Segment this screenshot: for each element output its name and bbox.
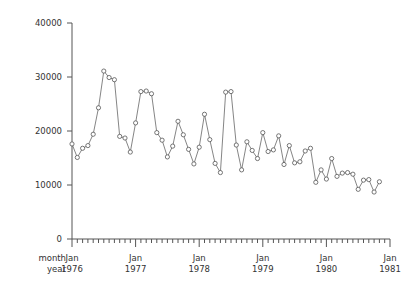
series-line	[72, 71, 379, 192]
data-point	[160, 138, 164, 142]
x-tick-label-year: 1978	[188, 264, 210, 274]
data-point	[144, 89, 148, 93]
data-point	[240, 168, 244, 172]
data-point	[351, 172, 355, 176]
data-point	[139, 89, 143, 93]
data-point	[149, 92, 153, 96]
data-point	[96, 106, 100, 110]
x-axis-tick-labels: Jan1976Jan1977Jan1978Jan1979Jan1980Jan19…	[61, 253, 401, 274]
data-point	[266, 149, 270, 153]
y-axis-ticks	[67, 23, 72, 239]
x-tick-label-month: Jan	[319, 253, 333, 263]
data-point	[361, 178, 365, 182]
x-axis-caption-year: year	[47, 264, 66, 274]
data-point	[118, 134, 122, 138]
data-point	[123, 136, 127, 140]
data-point	[356, 187, 360, 191]
data-point	[324, 177, 328, 181]
x-tick-label-year: 1981	[379, 264, 401, 274]
data-point	[155, 131, 159, 135]
data-point	[293, 161, 297, 165]
y-tick-label: 20000	[35, 126, 62, 136]
data-point	[319, 168, 323, 172]
x-axis-caption-month: month	[38, 253, 66, 263]
data-point	[107, 75, 111, 79]
x-tick-label-month: Jan	[128, 253, 142, 263]
x-tick-label-month: Jan	[192, 253, 206, 263]
data-point	[314, 180, 318, 184]
data-point	[377, 180, 381, 184]
data-point	[367, 178, 371, 182]
x-tick-label-year: 1977	[125, 264, 147, 274]
data-point	[271, 148, 275, 152]
y-tick-label: 40000	[35, 18, 62, 28]
data-point	[202, 112, 206, 116]
data-point	[192, 162, 196, 166]
data-point	[102, 69, 106, 73]
data-point	[308, 146, 312, 150]
series-markers	[70, 69, 382, 194]
y-tick-label: 30000	[35, 72, 62, 82]
data-point	[171, 144, 175, 148]
chart-container: 010000200003000040000 Jan1976Jan1977Jan1…	[0, 0, 420, 283]
data-point	[176, 119, 180, 123]
data-point	[340, 171, 344, 175]
x-axis-ticks	[72, 239, 390, 247]
data-point	[224, 90, 228, 94]
data-point	[298, 160, 302, 164]
data-point	[250, 148, 254, 152]
data-point	[70, 142, 74, 146]
y-tick-label: 10000	[35, 180, 62, 190]
data-point	[91, 132, 95, 136]
data-point	[229, 89, 233, 93]
data-point	[303, 149, 307, 153]
data-point	[81, 146, 85, 150]
x-tick-label-year: 1980	[316, 264, 338, 274]
x-tick-label-month: Jan	[255, 253, 269, 263]
x-tick-label-month: Jan	[64, 253, 78, 263]
data-point	[335, 174, 339, 178]
data-point	[213, 161, 217, 165]
data-point	[112, 78, 116, 82]
time-series-chart: 010000200003000040000 Jan1976Jan1977Jan1…	[0, 0, 420, 283]
data-point	[261, 131, 265, 135]
x-tick-label-month: Jan	[382, 253, 396, 263]
data-point	[330, 156, 334, 160]
data-point	[372, 190, 376, 194]
data-point	[282, 162, 286, 166]
data-point	[218, 170, 222, 174]
y-axis-tick-labels: 010000200003000040000	[35, 18, 62, 244]
data-point	[134, 121, 138, 125]
data-point	[346, 170, 350, 174]
data-point	[187, 147, 191, 151]
data-point	[234, 143, 238, 147]
data-point	[197, 145, 201, 149]
data-point	[255, 156, 259, 160]
data-point	[86, 143, 90, 147]
y-tick-label: 0	[57, 234, 62, 244]
data-point	[165, 155, 169, 159]
data-point	[75, 155, 79, 159]
data-point	[128, 150, 132, 154]
data-point	[277, 134, 281, 138]
data-point	[245, 140, 249, 144]
data-point	[181, 133, 185, 137]
data-point	[287, 143, 291, 147]
data-point	[208, 138, 212, 142]
x-tick-label-year: 1979	[252, 264, 274, 274]
